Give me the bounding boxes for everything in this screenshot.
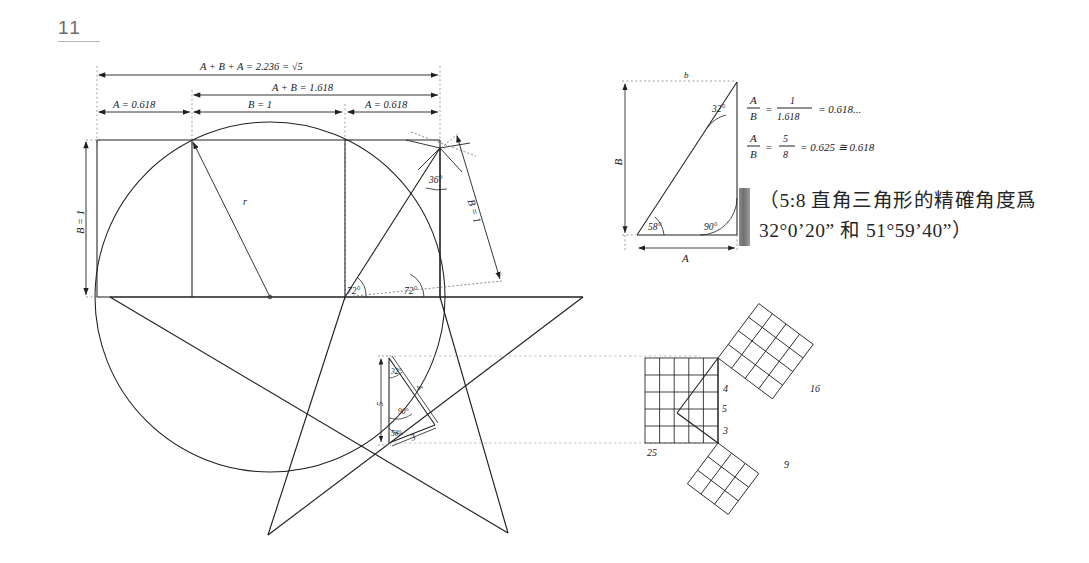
reference-angle-left-label: 58° <box>648 222 662 232</box>
square-16 <box>718 304 813 399</box>
equation-two: A B = 5 8 = 0.625 ≅ 0.618 <box>747 132 875 160</box>
eq1-frac-denominator: 1.618 <box>777 111 800 122</box>
gnomon-triangle <box>345 148 440 297</box>
square-25-label: 25 <box>647 447 657 458</box>
dim-left-vertical-label: B = 1 <box>75 210 86 234</box>
dim-total-label: A + B + A = 2.236 = √5 <box>199 61 303 72</box>
square-25 <box>645 358 718 443</box>
small-angle-right-label: 90° <box>398 407 409 416</box>
radius-label: r <box>243 196 247 207</box>
angle-arcs <box>357 188 447 297</box>
eq2-numerator: A <box>749 132 757 144</box>
eq2-equals: = <box>765 141 772 153</box>
eq2-result: = 0.625 ≅ 0.618 <box>800 141 875 153</box>
reference-top-label: b <box>684 70 689 80</box>
side-5-label: 5 <box>722 403 727 414</box>
reference-bottom-label: A <box>681 252 689 264</box>
side-3-label: 3 <box>722 425 728 436</box>
figure-plate: A + B + A = 2.236 = √5 A + B = 1.618 A =… <box>0 0 1089 563</box>
annotation-note: （5:8 直角三角形的精確角度爲 32°0’20” 和 51°59’40”） <box>759 186 1059 246</box>
eq1-denominator: B <box>750 110 757 122</box>
page-canvas: 11 <box>0 0 1089 563</box>
dim-ab-label: A + B = 1.618 <box>271 82 334 93</box>
reference-triangle-arcs <box>655 115 737 235</box>
radius-line <box>193 142 270 297</box>
eq1-equals: = <box>765 103 772 115</box>
pythagoras-triangle-edges <box>677 358 718 443</box>
small-angle-top-label: 32° <box>390 367 402 376</box>
eq2-frac-numerator: 5 <box>783 133 788 144</box>
dim-middle-b-label: B = 1 <box>248 99 272 110</box>
annotation-accent-bar <box>739 188 750 246</box>
square-16-label: 16 <box>810 383 820 394</box>
annotation-line-2: 32°0’20” 和 51°59’40”） <box>759 216 1059 246</box>
equation-one: A B = 1 1.618 = 0.618... <box>747 94 861 122</box>
reference-vertical-label: B <box>612 158 624 165</box>
reference-angle-right-label: 90° <box>704 222 718 232</box>
reference-angle-top-label: 32° <box>711 104 726 114</box>
eq1-numerator: A <box>749 94 757 106</box>
base-angle-left-label: 72° <box>347 286 361 296</box>
square-9-label: 9 <box>784 459 789 470</box>
eq1-result: = 0.618... <box>818 103 861 115</box>
square-9 <box>687 443 758 514</box>
small-vertical-label: 5 <box>375 401 385 406</box>
apex-angle-label: 36° <box>428 175 443 185</box>
dim-left-a-label: A = 0.618 <box>112 99 156 110</box>
small-angle-bottom-label: 58° <box>391 429 402 438</box>
small-triangle-angle-arcs <box>389 372 412 434</box>
annotation-line-1: （5:8 直角三角形的精確角度爲 <box>759 186 1059 216</box>
pentagram <box>110 297 583 535</box>
eq2-denominator: B <box>750 148 757 160</box>
dim-right-a-label: A = 0.618 <box>364 99 408 110</box>
eq1-frac-numerator: 1 <box>790 95 795 106</box>
side-4-label: 4 <box>723 383 728 394</box>
small-side-3-label: 3 <box>408 432 417 444</box>
slant-label: B = 1 <box>466 198 484 224</box>
apex-compass-marks <box>406 132 476 172</box>
eq2-frac-denominator: 8 <box>783 149 788 160</box>
main-rectangle <box>97 140 583 297</box>
